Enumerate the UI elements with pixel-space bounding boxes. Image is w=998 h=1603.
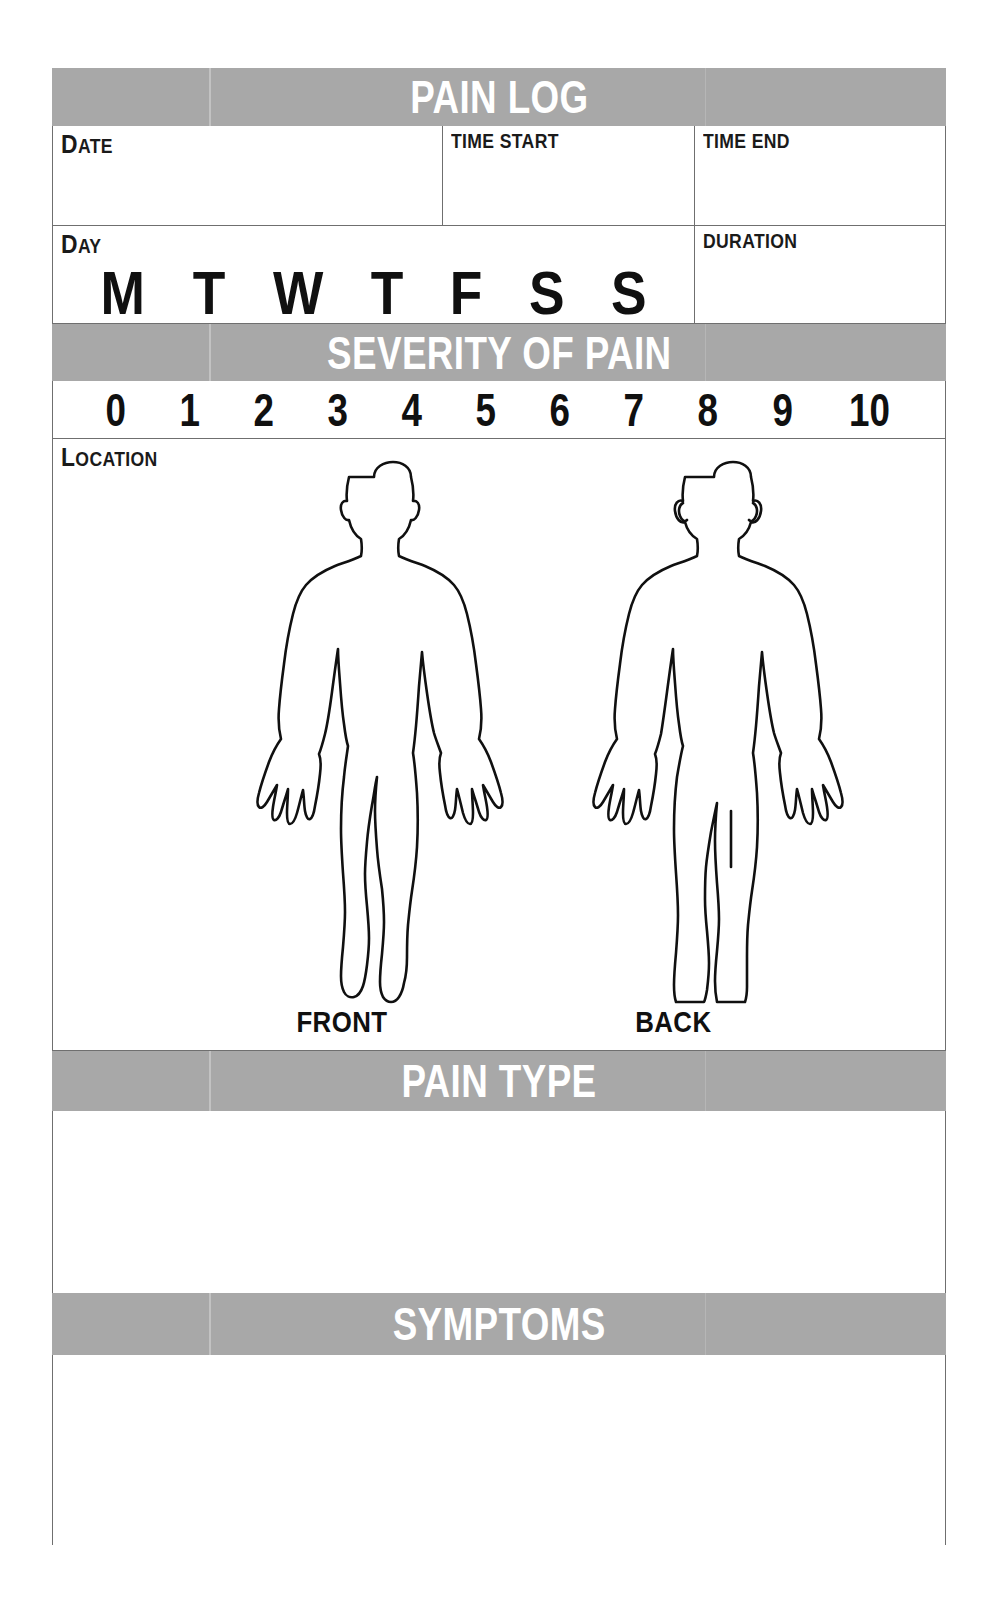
day-option-monday[interactable]: M xyxy=(101,264,145,321)
page-title: PAIN LOG xyxy=(410,74,588,120)
location-field[interactable]: LOCATION xyxy=(52,439,946,1051)
severity-option-3[interactable]: 3 xyxy=(328,387,348,433)
time-end-label: TIME END xyxy=(703,131,790,151)
front-body-outline xyxy=(258,462,503,1002)
pain-type-banner: PAIN TYPE xyxy=(52,1051,946,1111)
front-body-figure xyxy=(258,462,503,1002)
severity-option-4[interactable]: 4 xyxy=(402,387,422,433)
severity-of-pain-banner: SEVERITY OF PAIN xyxy=(52,324,946,381)
severity-scale: 0 1 2 3 4 5 6 7 8 9 10 xyxy=(52,381,946,439)
pain-type-heading: PAIN TYPE xyxy=(401,1058,596,1104)
severity-option-2[interactable]: 2 xyxy=(254,387,274,433)
time-start-field[interactable]: TIME START xyxy=(442,126,694,226)
severity-option-7[interactable]: 7 xyxy=(624,387,644,433)
back-right-ear xyxy=(749,503,757,521)
pain-log-sheet: PAIN LOG DATE TIME START TIME END DAY M … xyxy=(52,68,946,1603)
duration-field[interactable]: DURATION xyxy=(694,226,946,324)
severity-option-1[interactable]: 1 xyxy=(180,387,200,433)
severity-scale-row: 0 1 2 3 4 5 6 7 8 9 10 xyxy=(52,381,946,439)
back-body-outline xyxy=(594,462,843,1002)
day-duration-row: DAY M T W T F S S DURATION xyxy=(52,226,946,324)
severity-option-8[interactable]: 8 xyxy=(698,387,718,433)
back-figure-caption: BACK xyxy=(635,1007,711,1037)
pain-log-title-banner: PAIN LOG xyxy=(52,68,946,126)
day-field[interactable]: DAY M T W T F S S xyxy=(52,226,694,324)
date-label: DATE xyxy=(61,131,113,157)
duration-label: DURATION xyxy=(703,231,797,251)
severity-option-9[interactable]: 9 xyxy=(772,387,792,433)
date-field[interactable]: DATE xyxy=(52,126,442,226)
time-start-label: TIME START xyxy=(451,131,559,151)
day-option-sunday[interactable]: S xyxy=(611,264,647,321)
back-left-ear xyxy=(679,503,687,521)
severity-option-0[interactable]: 0 xyxy=(106,387,126,433)
severity-option-5[interactable]: 5 xyxy=(476,387,496,433)
day-option-thursday[interactable]: T xyxy=(371,264,404,321)
severity-heading: SEVERITY OF PAIN xyxy=(327,330,671,376)
back-body-figure xyxy=(594,462,843,1002)
symptoms-entry-area[interactable] xyxy=(52,1355,946,1545)
front-figure-caption: FRONT xyxy=(296,1007,387,1037)
severity-option-6[interactable]: 6 xyxy=(550,387,570,433)
day-label: DAY xyxy=(61,231,101,257)
body-diagram xyxy=(53,439,947,1051)
time-end-field[interactable]: TIME END xyxy=(694,126,946,226)
day-option-tuesday[interactable]: T xyxy=(193,264,226,321)
day-option-wednesday[interactable]: W xyxy=(273,264,323,321)
location-row: LOCATION xyxy=(52,439,946,1051)
day-of-week-selector: M T W T F S S xyxy=(53,264,694,321)
symptoms-heading: SYMPTOMS xyxy=(392,1301,605,1347)
severity-number-list: 0 1 2 3 4 5 6 7 8 9 10 xyxy=(53,381,945,438)
symptoms-banner: SYMPTOMS xyxy=(52,1293,946,1355)
day-option-friday[interactable]: F xyxy=(450,264,483,321)
date-time-row: DATE TIME START TIME END xyxy=(52,126,946,226)
day-option-saturday[interactable]: S xyxy=(529,264,565,321)
pain-type-entry-area[interactable] xyxy=(52,1111,946,1293)
severity-option-10[interactable]: 10 xyxy=(849,387,890,433)
